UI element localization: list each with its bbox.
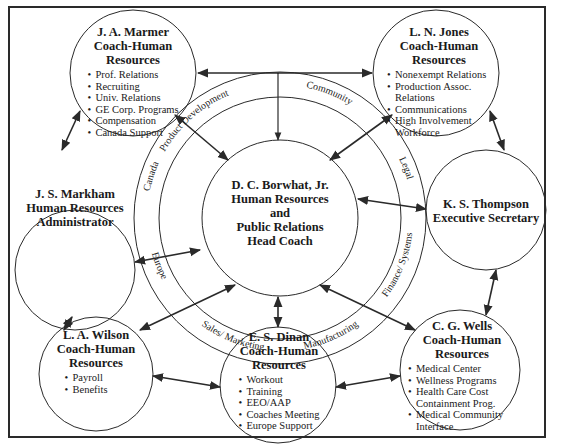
node-markham: J. S. Markham Human Resources Administra… — [20, 187, 130, 229]
list-item: GE Corp. Programs — [87, 104, 178, 116]
node-role: Resources — [78, 53, 188, 67]
node-role: Administrator — [20, 215, 130, 229]
node-name: J. S. Markham — [20, 187, 130, 201]
list-item: Wellness Programs — [408, 375, 516, 387]
list-item: Production Assoc. Relations — [387, 81, 491, 104]
list-item: Univ. Relations — [87, 92, 178, 104]
responsibility-list: Prof. Relations Recruiting Univ. Relatio… — [87, 69, 178, 138]
node-role: Executive Secretary — [428, 211, 544, 225]
node-name: L. N. Jones — [384, 25, 494, 39]
ring-label-canada: Canada — [141, 159, 161, 192]
node-role: Resources — [406, 347, 518, 361]
center-title-line: Public Relations — [205, 220, 355, 234]
node-role: Coach-Human — [384, 39, 494, 53]
list-item: Europe Support — [238, 420, 319, 432]
node-dinan: E. S. Dinan Coach-Human Resources Workou… — [226, 330, 332, 433]
center-title-line: Human Resources — [205, 192, 355, 206]
responsibility-list: Payroll Benefits — [65, 372, 108, 395]
node-wilson: L. A. Wilson Coach-Human Resources Payro… — [46, 328, 146, 397]
list-item: Medical Community Interface — [408, 409, 516, 432]
node-jones: L. N. Jones Coach-Human Resources Nonexe… — [384, 25, 494, 140]
node-marmer: J. A. Marmer Coach-Human Resources Prof.… — [78, 25, 188, 140]
list-item: Prof. Relations — [87, 69, 178, 81]
responsibility-list: Nonexempt Relations Production Assoc. Re… — [387, 69, 491, 138]
node-role: Coach-Human — [226, 344, 332, 358]
node-role: Resources — [46, 356, 146, 370]
node-wells: C. G. Wells Coach-Human Resources Medica… — [406, 319, 518, 434]
node-role: Coach-Human — [406, 333, 518, 347]
node-thompson: K. S. Thompson Executive Secretary — [428, 197, 544, 225]
responsibility-list: Workout Training EEO/AAP Coaches Meeting… — [238, 374, 319, 432]
list-item: Training — [238, 386, 319, 398]
list-item: Workout — [238, 374, 319, 386]
node-name: K. S. Thompson — [428, 197, 544, 211]
list-item: EEO/AAP — [238, 397, 319, 409]
center-name: D. C. Borwhat, Jr. — [205, 178, 355, 192]
list-item: Payroll — [65, 372, 108, 384]
list-item: Canada Support — [87, 127, 178, 139]
node-role: Resources — [384, 53, 494, 67]
list-item: High Involvement Workforce — [387, 115, 491, 138]
list-item: Benefits — [65, 384, 108, 396]
list-item: Nonexempt Relations — [387, 69, 491, 81]
center-title-line: and — [205, 206, 355, 220]
node-name: E. S. Dinan — [226, 330, 332, 344]
node-role: Human Resources — [20, 201, 130, 215]
ring-label-finance-systems: Finance/ Systems — [379, 232, 414, 299]
center-title-line: Head Coach — [205, 234, 355, 248]
list-item: Coaches Meeting — [238, 409, 319, 421]
list-item: Medical Center — [408, 363, 516, 375]
list-item: Compensation — [87, 115, 178, 127]
node-name: J. A. Marmer — [78, 25, 188, 39]
list-item: Health Care Cost Containment Prog. — [408, 386, 516, 409]
list-item: Recruiting — [87, 81, 178, 93]
node-role: Coach-Human — [46, 342, 146, 356]
node-role: Resources — [226, 358, 332, 372]
node-name: L. A. Wilson — [46, 328, 146, 342]
responsibility-list: Medical Center Wellness Programs Health … — [408, 363, 516, 432]
list-item: Communications — [387, 104, 491, 116]
ring-label-community: Community — [306, 79, 355, 107]
center-node-borwhat: D. C. Borwhat, Jr. Human Resources and P… — [205, 178, 355, 248]
node-role: Coach-Human — [78, 39, 188, 53]
node-name: C. G. Wells — [406, 319, 518, 333]
